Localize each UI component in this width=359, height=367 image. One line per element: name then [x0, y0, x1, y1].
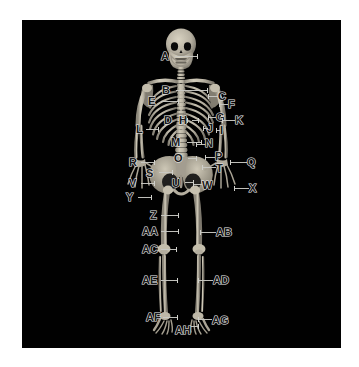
leader-tick-x [234, 186, 235, 191]
leader-line-u [185, 182, 193, 183]
label-h[interactable]: H [179, 115, 187, 126]
leader-tick-p [205, 155, 206, 160]
leader-tick-aa [178, 229, 179, 234]
leader-line-k [222, 120, 235, 121]
label-u[interactable]: U [172, 178, 180, 189]
leader-line-ag [198, 319, 212, 320]
label-ag[interactable]: AG [212, 315, 229, 326]
leader-line-g [208, 117, 216, 118]
leader-line-a [175, 56, 197, 57]
leader-line-y [138, 197, 151, 198]
leader-tick-ah [198, 324, 199, 329]
label-o[interactable]: O [174, 153, 183, 164]
label-w[interactable]: W [202, 180, 212, 191]
label-d[interactable]: D [164, 115, 172, 126]
label-ah[interactable]: AH [175, 325, 191, 336]
diagram-page: ABCDEFGHIJKLMNOPQRSTUVWXYZAAABACADAEAFAG… [0, 0, 359, 367]
leader-tick-n [196, 142, 197, 147]
label-t[interactable]: T [216, 163, 223, 174]
leader-tick-f [219, 102, 220, 107]
label-g[interactable]: G [216, 112, 225, 123]
leader-line-v [141, 183, 154, 184]
leader-tick-l [158, 127, 159, 132]
label-ad[interactable]: AD [213, 275, 229, 286]
leader-tick-k [222, 118, 223, 123]
label-v[interactable]: V [129, 178, 136, 189]
leader-tick-ac [176, 247, 177, 252]
leader-tick-z [178, 213, 179, 218]
label-s[interactable]: S [146, 168, 153, 179]
label-f[interactable]: F [228, 99, 235, 110]
leader-tick-e [178, 99, 179, 104]
label-l[interactable]: L [136, 124, 143, 135]
label-m[interactable]: M [171, 137, 180, 148]
leader-tick-ae [177, 278, 178, 283]
leader-tick-ad [198, 278, 199, 283]
leader-line-aa [161, 231, 178, 232]
leader-line-q [230, 162, 247, 163]
leader-tick-h [198, 118, 199, 123]
leader-line-w [193, 184, 202, 185]
label-j[interactable]: J [207, 123, 213, 134]
label-a[interactable]: A [161, 51, 169, 62]
label-aa[interactable]: AA [142, 226, 158, 237]
label-q[interactable]: Q [247, 157, 256, 168]
leader-tick-a [197, 54, 198, 59]
leader-line-f [219, 104, 228, 105]
leader-line-z [161, 215, 178, 216]
label-p[interactable]: P [215, 151, 222, 162]
label-n[interactable]: N [205, 138, 213, 149]
leader-line-m [187, 142, 201, 143]
label-af[interactable]: AF [146, 312, 161, 323]
leader-line-e [161, 101, 178, 102]
leader-line-p [205, 157, 215, 158]
label-z[interactable]: Z [150, 210, 157, 221]
leader-line-ad [198, 280, 213, 281]
label-k[interactable]: K [235, 115, 243, 126]
leader-tick-r [154, 160, 155, 165]
leader-tick-v [154, 181, 155, 186]
leader-line-ab [200, 232, 216, 233]
leader-line-b [176, 90, 207, 91]
leader-tick-o [196, 156, 197, 161]
leader-tick-q [230, 160, 231, 165]
label-r[interactable]: R [129, 157, 137, 168]
leader-tick-y [151, 195, 152, 200]
leader-tick-w [193, 182, 194, 187]
leader-line-x [234, 188, 249, 189]
leader-line-af [163, 317, 177, 318]
leader-tick-i [216, 128, 217, 133]
leader-line-o [188, 158, 196, 159]
label-i[interactable]: I [220, 125, 223, 136]
skeleton-figure [22, 20, 341, 348]
label-e[interactable]: E [148, 96, 155, 107]
label-y[interactable]: Y [126, 192, 133, 203]
leader-tick-ag [198, 317, 199, 322]
leader-line-l [146, 129, 158, 130]
leader-line-s [159, 172, 172, 173]
label-ac[interactable]: AC [142, 244, 158, 255]
leader-tick-b [207, 88, 208, 93]
leader-line-ae [161, 280, 177, 281]
label-ae[interactable]: AE [142, 275, 157, 286]
leader-tick-j [203, 126, 204, 131]
leader-line-ah [190, 326, 198, 327]
leader-tick-ab [200, 230, 201, 235]
label-c[interactable]: C [218, 91, 226, 102]
label-x[interactable]: X [249, 183, 256, 194]
skeleton-photo-panel: ABCDEFGHIJKLMNOPQRSTUVWXYZAAABACADAEAFAG… [22, 20, 341, 348]
label-b[interactable]: B [162, 85, 170, 96]
leader-tick-g [208, 115, 209, 120]
leader-line-r [141, 162, 154, 163]
leader-tick-d [187, 118, 188, 123]
leader-line-c [208, 96, 218, 97]
leader-tick-c [208, 94, 209, 99]
leader-tick-af [177, 315, 178, 320]
leader-line-ac [161, 249, 176, 250]
leader-line-t [202, 167, 216, 168]
leader-tick-s [172, 170, 173, 175]
label-ab[interactable]: AB [216, 227, 232, 238]
leader-tick-t [202, 165, 203, 170]
